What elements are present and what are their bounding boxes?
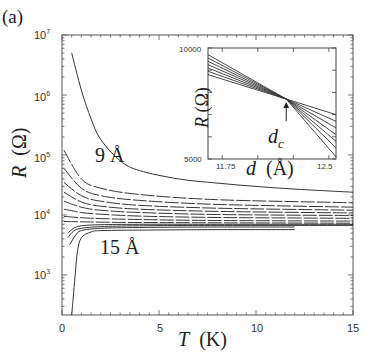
x-axis-label: T (K)	[178, 328, 227, 351]
y-tick-1e7: 107	[34, 28, 50, 41]
curve-9	[64, 222, 353, 224]
x-tick-15: 15	[347, 322, 359, 334]
y-tick-1e5: 105	[34, 151, 50, 164]
panel-label: (a)	[2, 6, 23, 28]
inset-y-tick-5000: 5000	[184, 155, 202, 164]
x-tick-0: 0	[59, 322, 65, 334]
annotation-15A: 15 Å	[100, 236, 139, 259]
y-tick-1e3: 103	[34, 268, 50, 281]
curve-3	[64, 168, 353, 207]
y-tick-1e4: 104	[34, 208, 50, 221]
x-tick-5: 5	[157, 322, 163, 334]
inset-y-tick-10000: 10000	[179, 45, 201, 54]
y-tick-1e6: 106	[34, 90, 50, 103]
inset-x-tick-12.5: 12.5	[317, 162, 333, 171]
inset-y-axis-label: R (Ω)	[192, 87, 213, 128]
y-axis-label: R (Ω)	[8, 128, 31, 178]
critical-thickness-label: dc	[268, 125, 284, 152]
x-tick-10: 10	[251, 322, 263, 334]
inset-x-axis-label: d (Å)	[246, 157, 294, 180]
inset-x-tick-11.75: 11.75	[216, 162, 235, 171]
annotation-9A: 9 Å	[95, 144, 124, 167]
main-plot	[0, 0, 392, 362]
